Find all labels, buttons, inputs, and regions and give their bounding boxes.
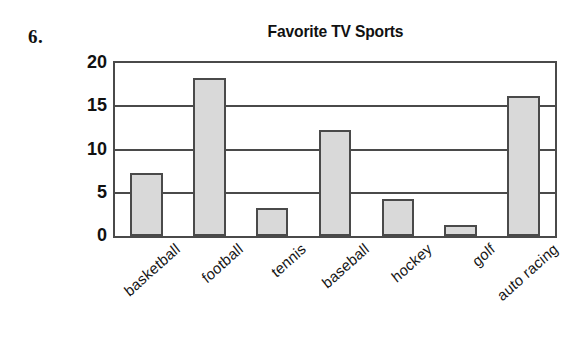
x-tick-label-football: football bbox=[198, 240, 247, 286]
x-tick-label-text: hockey bbox=[388, 240, 435, 286]
bar-auto-racing bbox=[507, 96, 540, 236]
y-tick-label-15: 15 bbox=[87, 95, 107, 116]
bar-baseball bbox=[319, 130, 352, 236]
chart-title: Favorite TV Sports bbox=[131, 22, 540, 42]
x-tick-label-basketball: basketball bbox=[121, 240, 184, 299]
x-tick-label-text: golf bbox=[469, 240, 498, 270]
x-tick-label-tennis: tennis bbox=[267, 240, 309, 280]
y-tick-label-20: 20 bbox=[87, 52, 107, 73]
x-tick-label-text: baseball bbox=[319, 240, 372, 292]
x-tick-label-hockey: hockey bbox=[388, 240, 436, 285]
x-tick-label-text: football bbox=[199, 240, 247, 287]
x-tick-label-golf: golf bbox=[468, 240, 498, 269]
bar-golf bbox=[444, 225, 477, 236]
bars-group bbox=[115, 63, 555, 236]
y-tick-label-0: 0 bbox=[97, 225, 107, 246]
bar-basketball bbox=[130, 173, 163, 236]
x-axis-labels: basketballfootballtennisbaseballhockeygo… bbox=[113, 240, 573, 341]
bar-tennis bbox=[256, 208, 289, 236]
chart-plot-area: 05101520 bbox=[113, 61, 557, 238]
bar-football bbox=[193, 78, 226, 236]
bar-hockey bbox=[382, 199, 415, 236]
x-tick-label-text: basketball bbox=[121, 240, 183, 300]
x-tick-label-auto-racing: auto racing bbox=[493, 240, 561, 304]
y-tick-label-10: 10 bbox=[87, 139, 107, 160]
y-tick-label-5: 5 bbox=[97, 182, 107, 203]
problem-number: 6. bbox=[28, 26, 43, 48]
x-tick-label-text: tennis bbox=[268, 240, 309, 281]
x-tick-label-baseball: baseball bbox=[318, 240, 372, 291]
x-tick-label-text: auto racing bbox=[493, 240, 560, 305]
